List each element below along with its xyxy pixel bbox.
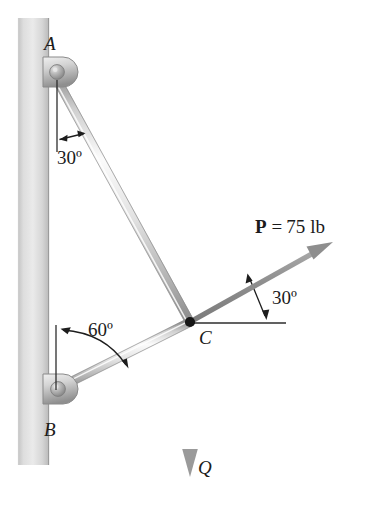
angle-label-b-60: 60º [88,320,113,339]
point-label-A: A [44,34,56,53]
force-vector-P [190,242,333,322]
angle-label-a-30: 30º [57,148,82,167]
member-BC [56,318,192,392]
force-equals-P: = [272,216,283,237]
force-symbol-P: P [255,216,267,237]
angle-marker-A [60,130,86,141]
pin-support-B [43,374,78,404]
diagram-canvas [0,0,383,506]
statics-diagram-figure: A B C 30º 60º 30º P=75lb Q [0,0,383,506]
joint-node-C [185,317,195,327]
force-magnitude-P: 75 [286,216,305,237]
pin-support-A [43,57,78,87]
force-label-P: P=75lb [255,217,325,236]
member-AC [50,72,194,324]
force-unit-P: lb [310,216,325,237]
force-vector-Q [182,322,198,477]
point-label-B: B [44,420,56,439]
force-label-Q: Q [198,458,212,477]
angle-label-c-30: 30º [272,288,297,307]
point-label-C: C [199,328,212,347]
